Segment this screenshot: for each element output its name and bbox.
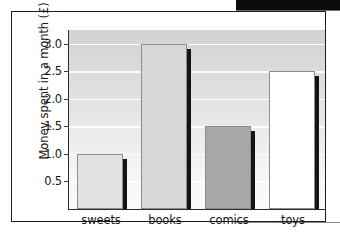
x-axis-label-toys: toys	[261, 213, 325, 227]
y-axis-tick-labels: 0.51.01.52.02.53.0	[32, 12, 62, 209]
y-axis-tick-mark	[64, 126, 69, 127]
bar-toys	[269, 71, 315, 209]
y-axis-tick-label: 1.0	[32, 147, 62, 161]
x-axis-label-books: books	[133, 213, 197, 227]
scan-artifact-black-bar	[236, 0, 340, 10]
y-axis-tick-mark	[64, 181, 69, 182]
plot-area	[69, 30, 325, 209]
bar-sweets	[77, 154, 123, 209]
x-axis-label-comics: comics	[197, 213, 261, 227]
y-axis-tick-label: 0.5	[32, 174, 62, 188]
x-axis-spine	[68, 209, 325, 211]
y-axis-tick-label: 2.0	[32, 92, 62, 106]
bar-shadow-comics	[251, 131, 255, 209]
bar-shadow-sweets	[123, 159, 127, 209]
y-axis-tick-mark	[64, 154, 69, 155]
bar-books	[141, 44, 187, 209]
bar-comics	[205, 126, 251, 209]
y-axis-tick-mark	[64, 99, 69, 100]
y-axis-tick-label: 3.0	[32, 37, 62, 51]
x-axis-category-labels: sweetsbookscomicstoys	[69, 211, 325, 233]
bar-shadow-toys	[315, 76, 319, 209]
y-axis-tick-label: 2.5	[32, 64, 62, 78]
figure-frame: Money spent in a month (£) 0.51.01.52.02…	[11, 11, 326, 222]
bar-shadow-books	[187, 49, 191, 209]
y-axis-tick-label: 1.5	[32, 119, 62, 133]
gridline	[69, 44, 325, 46]
y-axis-tick-mark	[64, 44, 69, 45]
y-axis-tick-mark	[64, 71, 69, 72]
x-axis-label-sweets: sweets	[69, 213, 133, 227]
